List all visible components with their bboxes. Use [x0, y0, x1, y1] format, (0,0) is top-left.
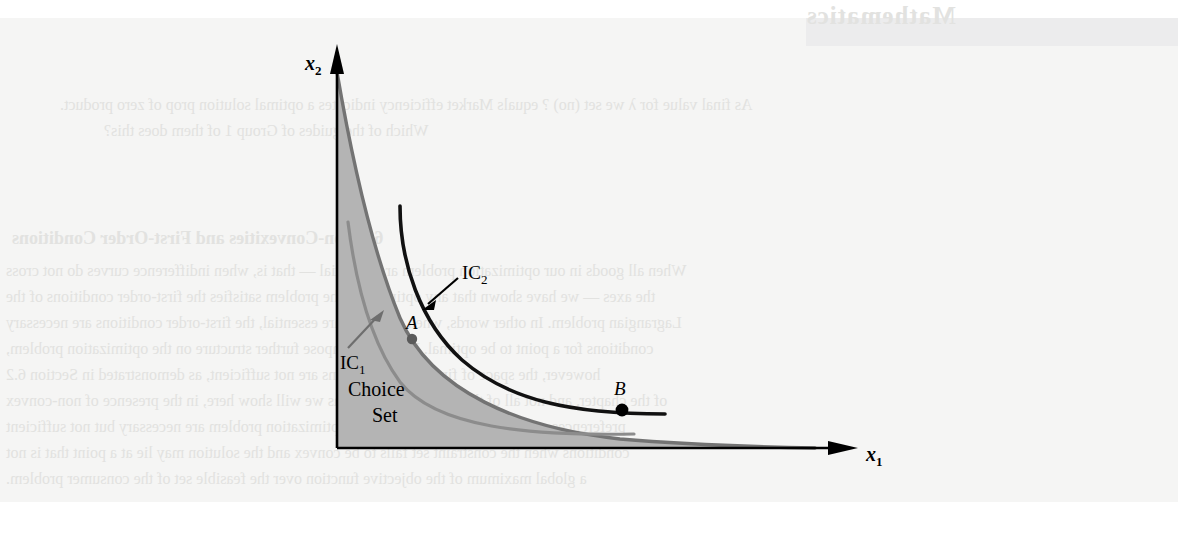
y-axis-label: x2	[305, 52, 322, 79]
point-a-marker	[407, 334, 417, 344]
point-b-label: B	[614, 378, 626, 400]
ic2-label: IC2	[462, 262, 488, 288]
point-b-marker	[616, 404, 629, 417]
choice-set-label-line-2: Set	[372, 404, 398, 427]
x-axis-label: x1	[866, 443, 883, 470]
indifference-curve-figure: Mathematics As final value for λ we set …	[0, 0, 1178, 536]
point-a-label: A	[406, 312, 418, 334]
ic2-pointer-arrow	[422, 278, 458, 310]
plot-canvas	[0, 0, 1178, 536]
choice-set-label-line-1: Choice	[348, 378, 405, 401]
ic1-label: IC1	[340, 352, 366, 378]
